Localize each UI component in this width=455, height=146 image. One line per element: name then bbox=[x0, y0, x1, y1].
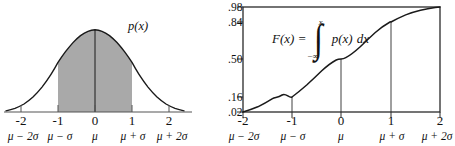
cdf-xtick-symbol-2: μ bbox=[338, 130, 344, 142]
pdf-xtick-symbol-4: μ + 2σ bbox=[157, 130, 188, 142]
pdf-xtick-symbol-2: μ bbox=[92, 130, 98, 142]
cdf-formula-lhs: F(x) bbox=[272, 31, 294, 47]
cdf-formula-equals: = bbox=[298, 31, 305, 47]
pdf-xtick-label-1: -1 bbox=[53, 113, 64, 129]
cdf-xtick-label-4: 2 bbox=[437, 113, 444, 129]
pdf-panel: p(x) -2 -1 0 1 2 μ − 2σ μ − σ μ μ + σ μ … bbox=[0, 0, 228, 146]
pdf-xtick-symbol-0: μ − 2σ bbox=[8, 130, 39, 142]
cdf-xtick-label-0: -2 bbox=[238, 113, 249, 129]
pdf-curve-label: p(x) bbox=[128, 19, 148, 34]
pdf-xtick-label-2: 0 bbox=[92, 113, 99, 129]
cdf-xtick-label-1: -1 bbox=[287, 113, 298, 129]
cdf-panel: F(x) = x ∫ −∞ p(x) dx .98 .84 .50 .16 .0… bbox=[228, 0, 455, 146]
pdf-xtick-label-4: 2 bbox=[166, 113, 173, 129]
probability-figure: p(x) -2 -1 0 1 2 μ − 2σ μ − σ μ μ + σ μ … bbox=[0, 0, 455, 146]
cdf-formula-integrand: p(x) bbox=[332, 31, 353, 47]
pdf-xtick-label-0: -2 bbox=[16, 113, 27, 129]
cdf-ytick-label-1: .84 bbox=[228, 16, 235, 28]
cdf-xtick-symbol-0: μ − 2σ bbox=[229, 130, 260, 142]
cdf-xtick-symbol-4: μ + 2σ bbox=[422, 130, 453, 142]
pdf-xtick-label-3: 1 bbox=[129, 113, 136, 129]
pdf-xtick-symbol-1: μ − σ bbox=[48, 130, 73, 142]
integral-lower-limit: −∞ bbox=[308, 51, 319, 61]
pdf-xtick-symbol-3: μ + σ bbox=[121, 130, 146, 142]
integral-symbol-group: x ∫ −∞ bbox=[311, 18, 327, 60]
cdf-ytick-label-0: .98 bbox=[228, 1, 235, 13]
cdf-formula: F(x) = x ∫ −∞ p(x) dx bbox=[272, 18, 369, 60]
cdf-xtick-symbol-3: μ + σ bbox=[380, 130, 405, 142]
cdf-formula-differential: dx bbox=[357, 31, 369, 47]
cdf-ytick-label-3: .16 bbox=[228, 91, 235, 103]
cdf-ytick-label-4: .02 bbox=[228, 106, 235, 118]
cdf-ytick-label-2: .50 bbox=[228, 53, 235, 65]
pdf-plot-svg bbox=[0, 0, 228, 146]
cdf-xtick-label-3: 1 bbox=[388, 113, 395, 129]
cdf-xtick-symbol-1: μ − σ bbox=[281, 130, 306, 142]
cdf-xtick-label-2: 0 bbox=[338, 113, 345, 129]
